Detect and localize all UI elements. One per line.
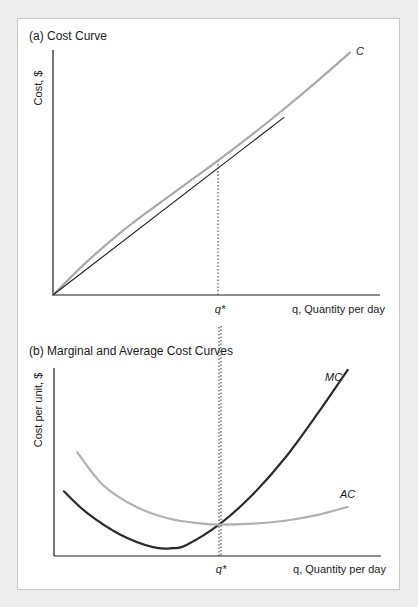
panel-a: (a) Cost Curve Cost, $ q* q, Quantity pe… xyxy=(29,29,385,315)
panel-b: (b) Marginal and Average Cost Curves Cos… xyxy=(29,326,386,575)
panel-b-qstar-tick: q* xyxy=(216,563,227,575)
panel-a-qstar-tick: q* xyxy=(215,303,226,315)
panel-a-xlabel: q, Quantity per day xyxy=(292,303,385,315)
panel-a-ylabel: Cost, $ xyxy=(32,71,44,106)
tangent-ray-line xyxy=(53,117,284,295)
panel-b-title: (b) Marginal and Average Cost Curves xyxy=(29,344,233,358)
cost-curve-line xyxy=(53,53,350,295)
panel-a-title: (a) Cost Curve xyxy=(29,29,107,43)
mc-curve-line xyxy=(64,370,348,549)
cost-curve-label: C xyxy=(356,45,364,57)
figure-svg: (a) Cost Curve Cost, $ q* q, Quantity pe… xyxy=(0,0,418,607)
panel-b-ylabel: Cost per unit, $ xyxy=(32,373,44,448)
panel-b-xlabel: q, Quantity per day xyxy=(293,563,386,575)
ac-curve-label: AC xyxy=(339,488,355,500)
mc-curve-label: MC xyxy=(325,371,342,383)
ac-curve-line xyxy=(77,452,348,525)
